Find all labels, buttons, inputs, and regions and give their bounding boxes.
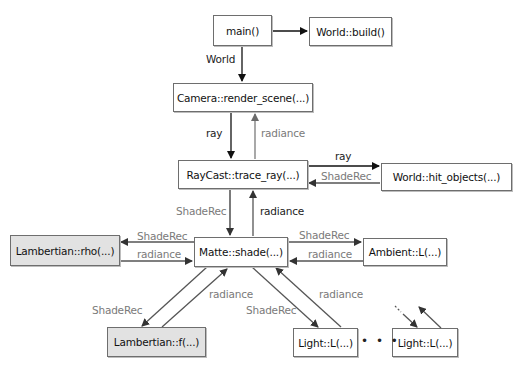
node-light-l-2: Light::L(...)	[392, 328, 458, 357]
dashed-continuation	[395, 306, 401, 312]
node-label: Lambertian::rho(...)	[16, 245, 115, 257]
edge-label-shaderec: ShadeRec	[92, 304, 142, 316]
edge-label-ray: ray	[206, 127, 222, 139]
edge-label-world: World	[206, 53, 235, 65]
edge-label-shaderec: ShadeRec	[299, 229, 349, 241]
arrow-matte-to-lambert-f	[142, 267, 207, 326]
node-main: main()	[213, 15, 272, 46]
edge-label-shaderec: ShadeRec	[246, 304, 296, 316]
node-label: Camera::render_scene(...)	[177, 92, 309, 104]
node-label: main()	[226, 25, 259, 37]
edge-label-radiance: radiance	[261, 127, 305, 139]
ellipsis: • • •	[361, 334, 400, 348]
call-graph-diagram: main() World::build() Camera::render_sce…	[0, 0, 518, 365]
arrow-light2-to-matte	[419, 307, 441, 328]
node-world-hit-objects: World::hit_objects(...)	[381, 163, 512, 191]
arrow-matte-to-light2	[403, 314, 417, 327]
edge-label-ray: ray	[335, 150, 351, 162]
edge-label-radiance: radiance	[137, 248, 181, 260]
edge-label-radiance: radiance	[209, 288, 253, 300]
edge-label-shaderec: ShadeRec	[321, 170, 371, 182]
node-label: Matte::shade(...)	[199, 246, 283, 258]
node-label: RayCast::trace_ray(...)	[186, 169, 299, 181]
node-matte-shade: Matte::shade(...)	[194, 237, 288, 267]
edge-label-radiance: radiance	[260, 205, 304, 217]
node-label: Light::L(...)	[298, 337, 353, 349]
edge-label-radiance: radiance	[308, 248, 352, 260]
edge-label-shaderec: ShadeRec	[137, 230, 187, 242]
node-label: World::build()	[316, 26, 384, 38]
node-lambertian-rho: Lambertian::rho(...)	[10, 235, 120, 266]
node-ambient-l: Ambient::L(...)	[363, 238, 447, 266]
edge-label-shaderec: ShadeRec	[176, 205, 226, 217]
node-lambertian-f: Lambertian::f(...)	[107, 327, 206, 357]
node-light-l-1: Light::L(...)	[293, 328, 358, 357]
node-camera-render-scene: Camera::render_scene(...)	[173, 83, 313, 112]
node-label: Light::L(...)	[398, 337, 453, 349]
node-label: Lambertian::f(...)	[114, 336, 199, 348]
node-world-build: World::build()	[309, 17, 392, 46]
node-label: World::hit_objects(...)	[393, 171, 501, 183]
node-raycast-trace-ray: RayCast::trace_ray(...)	[178, 160, 308, 189]
node-label: Ambient::L(...)	[369, 246, 441, 258]
edge-label-radiance: radiance	[319, 288, 363, 300]
